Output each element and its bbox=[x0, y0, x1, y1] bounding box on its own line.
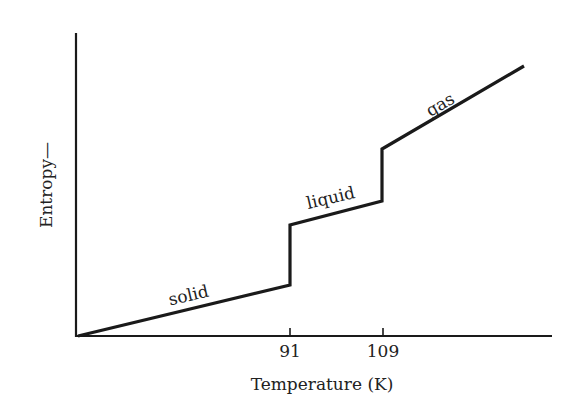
label-gas: gas bbox=[422, 88, 458, 120]
entropy-curve bbox=[78, 66, 524, 336]
entropy-temperature-chart: solid liquid gas 91 109 Temperature (K) … bbox=[0, 0, 579, 408]
x-axis-title: Temperature (K) bbox=[251, 374, 394, 394]
x-tick-label-109: 109 bbox=[367, 341, 399, 361]
y-axis-title: Entropy— bbox=[36, 142, 56, 228]
x-tick-label-91: 91 bbox=[279, 341, 301, 361]
